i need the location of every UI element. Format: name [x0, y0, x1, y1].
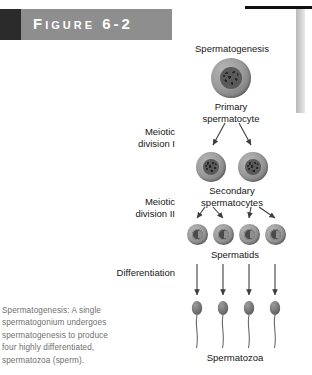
label-secondary-spermatocytes: Secondary spermatocytes — [177, 185, 287, 208]
cell-spermatozoon — [270, 301, 280, 348]
label-meiotic-division-2: Meiotic division II — [95, 196, 175, 219]
figure-banner: Figure 6-2 — [0, 9, 172, 40]
cell-spermatid — [239, 224, 260, 245]
arrows-meiotic-division-1 — [213, 123, 251, 145]
nucleus-spermatid — [244, 229, 255, 240]
right-edge-strip — [296, 9, 305, 113]
nucleus-secondary-spermatocyte — [245, 159, 261, 175]
cell-secondary-spermatocyte — [238, 152, 268, 182]
diagram-title: Spermatogenesis — [178, 43, 286, 55]
nucleus-spermatid — [270, 229, 281, 240]
label-primary-spermatocyte: Primary spermatocyte — [177, 101, 285, 124]
nucleus-spermatid — [192, 229, 203, 240]
label-meiotic-division-1: Meiotic division I — [95, 126, 175, 149]
nucleus-secondary-spermatocyte — [203, 159, 219, 175]
cell-secondary-spermatocyte — [196, 152, 226, 182]
label-differentiation: Differentiation — [95, 267, 175, 279]
nucleus-spermatid — [218, 229, 229, 240]
label-spermatids: Spermatids — [185, 249, 285, 261]
figure-caption: Spermatogenesis: A single spermatogonium… — [2, 305, 124, 367]
label-spermatozoa: Spermatozoa — [185, 352, 285, 364]
figure-number-label: Figure 6-2 — [33, 13, 133, 35]
cell-spermatozoon-group — [192, 301, 280, 348]
cell-primary-spermatocyte — [211, 58, 251, 98]
cell-spermatozoon — [192, 301, 202, 348]
cell-spermatozoon — [218, 301, 228, 348]
arrows-meiotic-division-2 — [197, 207, 275, 218]
cell-spermatid — [265, 224, 286, 245]
figure-banner-dark-block — [0, 9, 21, 40]
nucleus-primary-spermatocyte — [220, 67, 242, 89]
cell-spermatozoon — [244, 301, 254, 348]
arrows-differentiation — [197, 264, 275, 295]
cell-spermatid — [187, 224, 208, 245]
cell-spermatid — [213, 224, 234, 245]
